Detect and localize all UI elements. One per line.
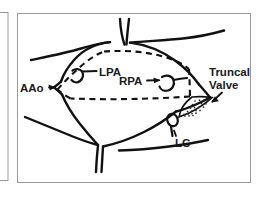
left-coronary-ostium	[166, 112, 180, 127]
label-lc: LC	[175, 137, 190, 149]
figure-panel: AAo LPA RPA Truncal Valve LC	[0, 0, 262, 197]
superior-vessel-stump-right	[127, 19, 130, 45]
superior-vessel-stump-left	[120, 19, 125, 45]
resection-outline-right	[189, 69, 190, 97]
aao-arrowhead	[49, 84, 56, 90]
rpa-orifice	[160, 76, 174, 91]
label-aao: AAo	[20, 82, 44, 94]
inferior-vessel-stump-left	[96, 146, 98, 172]
inferior-vessel-stump-right	[102, 147, 104, 173]
lower-right-vessel	[119, 140, 208, 151]
root-contour-lower-right	[103, 112, 176, 147]
lpa-orifice-stem	[82, 71, 97, 72]
rpa-arrowhead	[154, 77, 161, 83]
drawing-ink	[25, 19, 224, 172]
root-contour-lower-left	[62, 95, 98, 146]
left-coronary-tail	[171, 127, 173, 137]
label-truncal-valve-line1: Truncal	[209, 66, 250, 78]
upper-right-vessel	[130, 31, 224, 43]
label-lpa: LPA	[99, 66, 121, 78]
resection-outline-lower	[71, 97, 191, 100]
lc-leader	[174, 131, 176, 137]
adjacent-panel-border	[0, 13, 8, 181]
anatomy-illustration: AAo LPA RPA Truncal Valve LC	[0, 0, 262, 197]
label-rpa: RPA	[119, 75, 142, 87]
label-truncal-valve-line2: Valve	[209, 79, 238, 91]
rpa-orifice-stem	[174, 78, 188, 80]
